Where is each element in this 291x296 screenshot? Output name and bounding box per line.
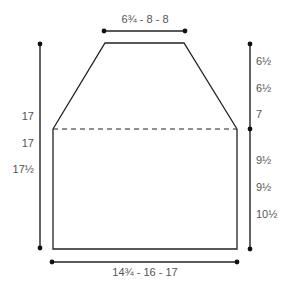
left-length-label: 17½ xyxy=(0,163,34,175)
bottom-width-label: 14¾ - 16 - 17 xyxy=(45,266,245,278)
yoke-outline xyxy=(53,43,237,129)
right-lower-length-label: 9½ xyxy=(256,181,271,193)
dimension-dot xyxy=(38,246,43,251)
left-length-label: 17 xyxy=(0,110,34,122)
top-width-label: 6¾ - 8 - 8 xyxy=(45,13,245,25)
left-length-label: 17 xyxy=(0,137,34,149)
dimension-dot xyxy=(183,29,188,34)
right-lower-length-label: 9½ xyxy=(256,154,271,166)
right-upper-length-label: 7 xyxy=(256,108,262,120)
right-lower-length-label: 10½ xyxy=(256,208,277,220)
dimension-dot xyxy=(248,127,253,132)
dimension-dot xyxy=(248,247,253,252)
dimension-dot xyxy=(235,260,240,265)
dimension-dot xyxy=(248,42,253,47)
right-upper-length-label: 6½ xyxy=(256,82,271,94)
dimension-dot xyxy=(38,42,43,47)
dimension-dot xyxy=(102,29,107,34)
dimension-dot xyxy=(50,260,55,265)
body-outline xyxy=(53,129,237,249)
schematic-drawing xyxy=(0,0,291,296)
right-upper-length-label: 6½ xyxy=(256,55,271,67)
